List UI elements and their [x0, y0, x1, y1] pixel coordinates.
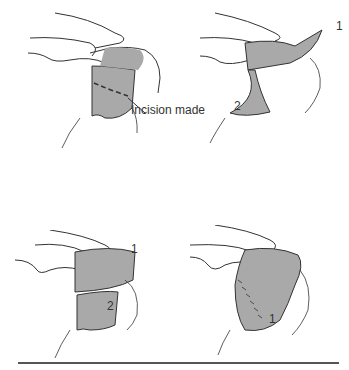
incision-label: Incision made [131, 104, 205, 116]
shoulder-illustration-d [180, 225, 340, 360]
bottom-rule [18, 362, 339, 364]
shoulder-illustration-b [200, 8, 349, 148]
flap-1-label: 1 [336, 20, 343, 32]
panel-flaps-raised [200, 8, 349, 148]
flap-2-label: 2 [234, 100, 241, 112]
shoulder-illustration-a [20, 8, 170, 148]
flap-1-label-c: 1 [131, 243, 138, 255]
flap-1-label-d: 1 [269, 313, 276, 325]
panel-incision [20, 8, 170, 148]
shoulder-illustration-c [15, 230, 165, 360]
flap-2-label-c: 2 [107, 300, 114, 312]
panel-flap-repositioned [15, 230, 165, 360]
panel-sutured [180, 225, 340, 360]
